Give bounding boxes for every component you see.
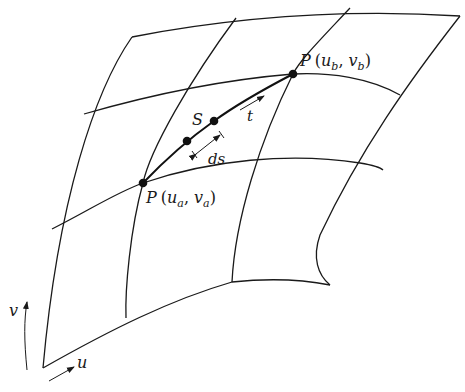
point-a-dot	[139, 179, 148, 188]
curve-label-s: S	[192, 110, 203, 129]
grid-u-line-2	[52, 158, 383, 229]
v-axis-label: v	[9, 301, 18, 320]
grid-u-line-1	[84, 74, 400, 114]
grid-top-edge	[132, 13, 460, 37]
u-axis-indicator: u	[49, 353, 87, 381]
grid-left-edge	[43, 37, 132, 368]
v-arrow-icon	[25, 302, 27, 370]
u-axis-label: u	[77, 353, 87, 372]
point-b-dot	[289, 70, 298, 79]
ds-label: ds	[208, 150, 226, 168]
grid-v-line-1	[126, 18, 236, 318]
tangent-label: t	[247, 107, 254, 125]
s-dot-1	[183, 137, 192, 146]
surface-diagram: S t ds P(aua, va) P(ub, vb) v u	[0, 0, 465, 392]
s-dot-2	[210, 117, 219, 126]
v-axis-indicator: v	[9, 301, 27, 370]
surface-grid	[43, 8, 460, 368]
u-arrow-icon	[49, 367, 74, 381]
point-b-label: P(ub, vb)	[299, 51, 371, 73]
grid-v-line-2	[232, 8, 350, 282]
point-a-label: P(aua, va)	[145, 188, 216, 210]
